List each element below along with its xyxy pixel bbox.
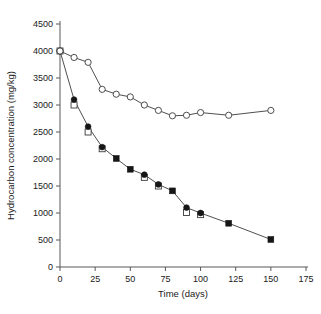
- data-point-open-circle: [268, 107, 274, 113]
- data-point-open-square: [71, 102, 77, 108]
- series-group: [57, 48, 274, 242]
- x-tick-label: 0: [57, 274, 62, 284]
- data-point-open-circle: [127, 94, 133, 100]
- data-point-open-square: [85, 129, 91, 135]
- y-tick-label: 2500: [33, 127, 53, 137]
- chart-plot-area: 0500100015002000250030003500400045000255…: [0, 0, 321, 314]
- data-point-open-circle: [155, 107, 161, 113]
- data-point-open-circle: [141, 102, 147, 108]
- data-point-filled-circle: [71, 97, 77, 103]
- data-point-open-circle: [226, 112, 232, 118]
- open-circle-series-line: [60, 51, 271, 116]
- data-point-open-circle: [183, 112, 189, 118]
- data-point-open-circle: [197, 109, 203, 115]
- data-point-filled-circle: [184, 205, 190, 211]
- x-tick-label: 75: [160, 274, 170, 284]
- data-point-open-circle: [99, 86, 105, 92]
- x-tick-label: 150: [263, 274, 278, 284]
- y-axis-title: Hydrocarbon concentration (mg/kg): [5, 71, 16, 220]
- data-point-open-circle: [85, 59, 91, 65]
- y-tick-label: 500: [38, 235, 53, 245]
- data-point-filled-square: [113, 156, 119, 162]
- x-tick-label: 125: [228, 274, 243, 284]
- axis-labels-group: 0500100015002000250030003500400045000255…: [5, 19, 314, 299]
- y-tick-label: 3500: [33, 73, 53, 83]
- filled-marker-series-line: [60, 51, 271, 239]
- x-tick-label: 175: [298, 274, 313, 284]
- data-point-filled-square: [226, 220, 232, 226]
- x-tick-label: 100: [193, 274, 208, 284]
- y-tick-label: 1500: [33, 181, 53, 191]
- y-tick-label: 4000: [33, 46, 53, 56]
- x-axis-title: Time (days): [158, 288, 208, 299]
- data-point-filled-square: [127, 166, 133, 172]
- y-tick-label: 3000: [33, 100, 53, 110]
- y-tick-label: 4500: [33, 19, 53, 29]
- data-point-open-circle: [169, 113, 175, 119]
- x-tick-label: 25: [90, 274, 100, 284]
- y-tick-label: 0: [48, 262, 53, 272]
- data-point-filled-square: [170, 188, 176, 194]
- data-point-filled-circle: [156, 181, 162, 187]
- chart-figure: 0500100015002000250030003500400045000255…: [0, 0, 321, 314]
- data-point-filled-circle: [99, 144, 105, 150]
- data-point-open-circle: [57, 48, 63, 54]
- data-point-open-circle: [113, 91, 119, 97]
- data-point-filled-circle: [85, 124, 91, 130]
- x-tick-label: 50: [125, 274, 135, 284]
- data-point-open-circle: [71, 54, 77, 60]
- data-point-filled-circle: [198, 210, 204, 216]
- data-point-filled-square: [268, 237, 274, 243]
- y-tick-label: 2000: [33, 154, 53, 164]
- data-point-filled-circle: [141, 172, 147, 178]
- y-tick-label: 1000: [33, 208, 53, 218]
- axes-group: [56, 21, 308, 271]
